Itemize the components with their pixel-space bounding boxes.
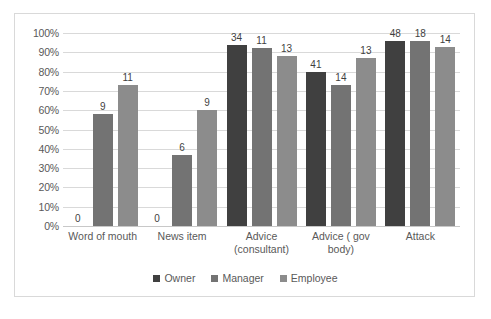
y-axis-tick-label: 10% [15, 201, 59, 213]
legend-label: Employee [291, 272, 338, 284]
bar-slot: 48 [385, 33, 405, 226]
legend-label: Owner [164, 272, 195, 284]
bar[interactable] [385, 41, 405, 226]
y-axis-tick-label: 70% [15, 85, 59, 97]
bar[interactable] [435, 47, 455, 226]
y-axis-tick-label: 50% [15, 124, 59, 136]
bar-slot: 9 [93, 33, 113, 226]
bar[interactable] [277, 56, 297, 226]
bar-slot: 11 [118, 33, 138, 226]
bar-value-label: 9 [100, 101, 106, 112]
bar-slot: 13 [356, 33, 376, 226]
y-axis-tick-label: 30% [15, 162, 59, 174]
bar-value-label: 34 [231, 32, 242, 43]
legend-swatch-icon [211, 275, 218, 282]
bar-group: 0911 [63, 33, 142, 226]
x-axis-category-label: News item [142, 230, 221, 256]
bar-value-label: 0 [75, 213, 81, 224]
bar-slot: 14 [331, 33, 351, 226]
bar-slot: 14 [435, 33, 455, 226]
bar-value-label: 14 [440, 34, 451, 45]
x-axis-category-label: Advice (consultant) [222, 230, 301, 256]
bar-value-label: 11 [123, 72, 133, 83]
bar-value-label: 6 [179, 142, 185, 153]
bar[interactable] [252, 48, 272, 226]
y-axis-tick-label: 40% [15, 143, 59, 155]
bar[interactable] [172, 155, 192, 226]
bar[interactable] [227, 45, 247, 226]
x-axis-category-label: Attack [381, 230, 460, 256]
y-axis-tick-label: 0% [15, 220, 59, 232]
legend-label: Manager [222, 272, 263, 284]
y-axis-tick-label: 20% [15, 181, 59, 193]
y-axis-tick-label: 80% [15, 66, 59, 78]
bar[interactable] [410, 41, 430, 226]
bar-slot: 41 [306, 33, 326, 226]
bar-value-label: 11 [256, 35, 266, 46]
bar-group: 069 [142, 33, 221, 226]
chart-container: 0%10%20%30%40%50%60%70%80%90%100% 091106… [14, 13, 475, 297]
bar[interactable] [356, 58, 376, 226]
bar-group: 481814 [381, 33, 460, 226]
bar-value-label: 9 [204, 97, 210, 108]
legend-item[interactable]: Manager [211, 272, 263, 284]
bar-slot: 9 [197, 33, 217, 226]
bar-slot: 6 [172, 33, 192, 226]
bar[interactable] [118, 85, 138, 226]
bar[interactable] [93, 114, 113, 226]
x-axis-category-label: Word of mouth [63, 230, 142, 256]
bar-groups: 0911069341113411413481814 [63, 33, 460, 226]
bar-slot: 11 [252, 33, 272, 226]
bar-slot: 0 [68, 33, 88, 226]
bar-value-label: 41 [310, 59, 321, 70]
chart-legend: OwnerManagerEmployee [15, 272, 476, 284]
bar-value-label: 13 [360, 45, 371, 56]
legend-swatch-icon [153, 275, 160, 282]
bar-slot: 0 [147, 33, 167, 226]
bar[interactable] [197, 110, 217, 226]
bar-slot: 34 [227, 33, 247, 226]
bar-group: 341113 [222, 33, 301, 226]
bar-value-label: 14 [335, 72, 346, 83]
y-axis: 0%10%20%30%40%50%60%70%80%90%100% [15, 33, 59, 226]
bar[interactable] [306, 72, 326, 226]
legend-item[interactable]: Owner [153, 272, 195, 284]
bar-value-label: 18 [415, 28, 426, 39]
legend-swatch-icon [280, 275, 287, 282]
bar-value-label: 0 [154, 213, 160, 224]
bar[interactable] [331, 85, 351, 226]
legend-item[interactable]: Employee [280, 272, 338, 284]
y-axis-tick-label: 90% [15, 46, 59, 58]
x-axis-category-label: Advice ( gov body) [301, 230, 380, 256]
bar-slot: 13 [277, 33, 297, 226]
bar-slot: 18 [410, 33, 430, 226]
x-axis: Word of mouthNews itemAdvice (consultant… [63, 230, 460, 256]
bar-group: 411413 [301, 33, 380, 226]
y-axis-tick-label: 100% [15, 27, 59, 39]
bar-value-label: 13 [281, 43, 292, 54]
gridline [63, 226, 460, 227]
y-axis-tick-label: 60% [15, 104, 59, 116]
bar-value-label: 48 [390, 28, 401, 39]
